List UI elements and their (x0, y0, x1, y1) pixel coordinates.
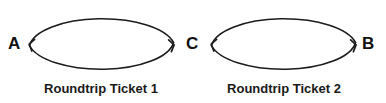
cycle-2-bottom-arc (212, 43, 356, 70)
cycle-1-arrowhead-at-a (29, 39, 34, 51)
cycle-2-caption: Roundtrip Ticket 2 (227, 81, 341, 96)
node-label-b: B (362, 34, 374, 53)
node-label-a: A (8, 34, 20, 53)
node-label-c: C (186, 34, 198, 53)
cycle-1-bottom-arc (30, 43, 174, 70)
cycle-2-arrowhead-at-c (211, 39, 216, 51)
cycle-2-top-arc (212, 19, 356, 46)
cycle-1-group: Roundtrip Ticket 1 (29, 19, 174, 96)
cycle-1-caption: Roundtrip Ticket 1 (44, 81, 158, 96)
roundtrip-ticket-diagram: Roundtrip Ticket 1 Roundtrip Ticket 2 A … (0, 0, 386, 103)
cycle-1-top-arc (30, 19, 174, 46)
diagram-canvas: Roundtrip Ticket 1 Roundtrip Ticket 2 A … (0, 0, 386, 103)
cycle-2-group: Roundtrip Ticket 2 (211, 19, 356, 96)
